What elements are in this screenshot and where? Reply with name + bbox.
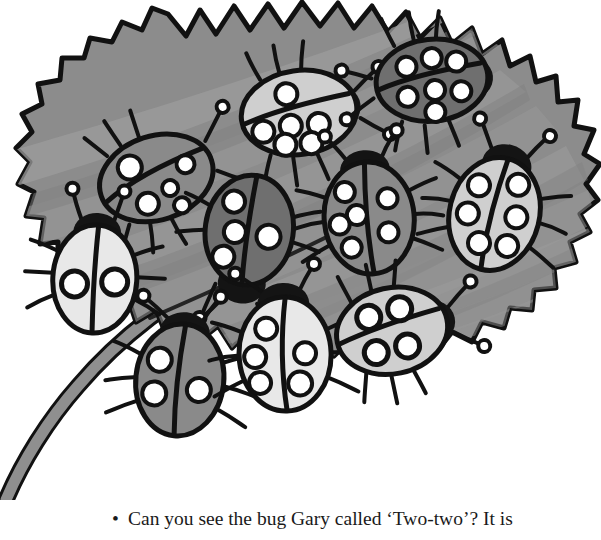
caption-area: • Can you see the bug Gary called ‘Two-t… (0, 498, 601, 540)
caption-text: Can you see the bug Gary called ‘Two-two… (128, 506, 513, 532)
page-root: • Can you see the bug Gary called ‘Two-t… (0, 0, 601, 540)
illustration-svg (0, 0, 601, 500)
caption-bullet: • (112, 506, 119, 532)
ladybug-leaf-illustration (0, 0, 601, 500)
